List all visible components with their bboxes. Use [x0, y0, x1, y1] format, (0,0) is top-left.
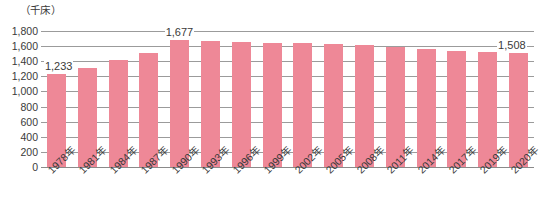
y-axis-tick-label: 1,000	[0, 86, 38, 96]
y-axis-tick-label: 1,600	[0, 41, 38, 51]
bar	[170, 40, 189, 167]
y-axis-tick-label: 800	[0, 102, 38, 112]
unit-caption: （千床）	[20, 2, 61, 17]
y-axis-tick-label: 600	[0, 117, 38, 127]
y-axis-tick-label: 1,400	[0, 56, 38, 66]
y-axis-tick-label: 1,800	[0, 26, 38, 36]
data-value-label: 1,508	[497, 40, 527, 51]
x-axis-tick-labels: 1978年1981年1984年1987年1990年1993年1996年1999年…	[41, 168, 534, 221]
data-value-label: 1,233	[44, 61, 74, 72]
y-axis-tick-label: 1,200	[0, 71, 38, 81]
bar-chart: （千床） 1,8001,6001,4001,2001,0008006004002…	[0, 0, 539, 221]
y-axis-tick-label: 200	[0, 147, 38, 157]
y-axis-tick-label: 400	[0, 132, 38, 142]
y-axis-tick-label: 0	[0, 162, 38, 172]
y-axis-tick-labels: 1,8001,6001,4001,2001,0008006004002000	[0, 31, 38, 167]
data-value-label: 1,677	[165, 27, 195, 38]
